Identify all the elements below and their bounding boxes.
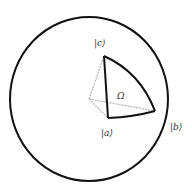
geodesic-triangle xyxy=(104,56,155,118)
label-a: |a⟩ xyxy=(101,128,113,139)
edge-c-a xyxy=(104,56,108,118)
label-omega: Ω xyxy=(116,91,125,101)
bloch-sphere-diagram: |c⟩ |a⟩ |b⟩ Ω xyxy=(0,0,192,194)
ray-to-c xyxy=(89,56,104,99)
edge-a-b xyxy=(108,111,155,118)
label-c: |c⟩ xyxy=(94,38,106,49)
label-b: |b⟩ xyxy=(170,122,182,133)
